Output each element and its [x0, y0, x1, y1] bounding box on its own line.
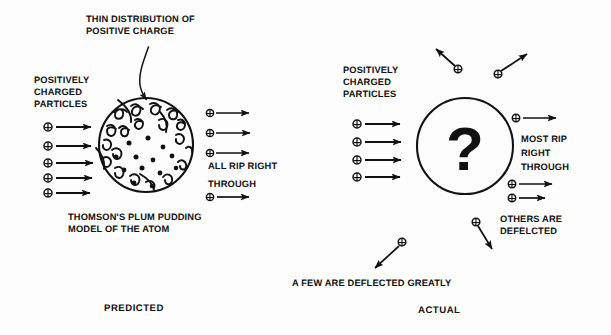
incoming-beam: [44, 159, 93, 167]
nucleus-question-mark: ?: [446, 114, 484, 183]
deflected-particle: [436, 49, 462, 73]
callout-pointer-predicted: [140, 47, 149, 100]
plum-pudding-atom: [96, 98, 193, 192]
predicted-incoming-label-line2: CHARGED: [34, 87, 82, 99]
straight-through-beam: [508, 180, 552, 187]
actual-caption: ACTUAL: [418, 305, 460, 317]
actual-outcome-label-line1: MOST RIP: [521, 134, 567, 146]
scattering-experiment-figure: ?: [0, 0, 611, 335]
callout-label-line1: THIN DISTRIBUTION OF: [86, 14, 195, 26]
predicted-outcome-label-line2: THROUGH: [208, 179, 256, 191]
straight-through-beam: [512, 114, 556, 121]
incoming-beam: [44, 123, 91, 131]
actual-incoming-label-line3: PARTICLES: [343, 89, 396, 101]
outgoing-beam: [206, 129, 250, 136]
actual-incoming-label-line1: POSITIVELY: [343, 65, 398, 77]
unknown-atom: ?: [417, 98, 513, 194]
actual-incoming-beams: [353, 120, 401, 181]
actual-outcome-label-line3: THROUGH: [521, 162, 569, 174]
incoming-beam: [353, 156, 401, 164]
actual-outcome-label-line2: RIGHT: [521, 148, 551, 160]
deflected-particle: [472, 218, 492, 249]
incoming-beam: [44, 142, 91, 150]
actual-deflected-label-line1: OTHERS ARE: [500, 214, 562, 226]
thomson-model-label-line2: MODEL OF THE ATOM: [68, 224, 169, 236]
incoming-beam: [44, 174, 92, 182]
predicted-caption: PREDICTED: [104, 303, 164, 315]
callout-label-line2: POSITIVE CHARGE: [86, 26, 174, 38]
incoming-beam: [353, 138, 401, 146]
deflected-particle: [375, 238, 406, 268]
predicted-incoming-label-line3: PARTICLES: [34, 99, 87, 111]
incoming-beam: [353, 120, 400, 128]
incoming-beam: [353, 173, 400, 181]
electron-dots: [114, 136, 179, 189]
actual-backscatter-label: A FEW ARE DEFLECTED GREATLY: [292, 278, 451, 290]
predicted-incoming-beams: [44, 123, 93, 197]
outgoing-beam: [206, 149, 249, 156]
predicted-incoming-label-line1: POSITIVELY: [34, 75, 89, 87]
outgoing-beam: [206, 109, 249, 116]
outgoing-beam: [206, 193, 249, 200]
incoming-beam: [44, 189, 90, 197]
actual-incoming-label-line2: CHARGED: [343, 77, 391, 89]
predicted-outcome-label-line1: ALL RIP RIGHT: [208, 161, 277, 173]
thomson-model-label-line1: THOMSON'S PLUM PUDDING: [68, 212, 202, 224]
deflected-particle: [494, 54, 527, 78]
straight-through-beam: [508, 194, 545, 201]
actual-deflected-label-line2: DEFELCTED: [500, 226, 557, 238]
